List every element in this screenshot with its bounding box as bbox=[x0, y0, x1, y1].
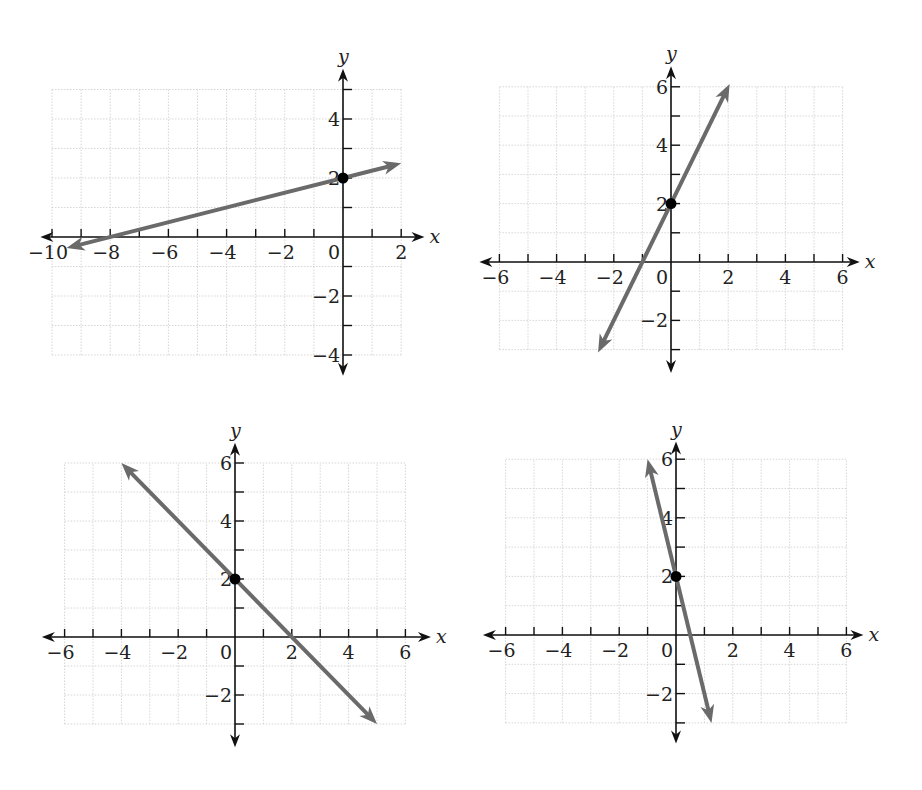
x-tick-label: −4 bbox=[103, 641, 131, 663]
y-tick-label: 6 bbox=[656, 76, 668, 98]
x-tick-label: 2 bbox=[722, 266, 734, 288]
grid bbox=[52, 90, 401, 356]
graph-3: −6−4−20246−2246xy bbox=[42, 419, 447, 748]
x-tick-label: 4 bbox=[779, 266, 791, 288]
axes: −6−4−20246−2246xy bbox=[483, 418, 880, 744]
x-axis-name: x bbox=[868, 623, 879, 645]
axes: −6−4−20246−2246xy bbox=[479, 42, 875, 373]
graphs-figure: −10−8−6−4−202−4−224xy −6−4−20246−2246xy … bbox=[0, 0, 922, 790]
x-tick-label: 4 bbox=[343, 641, 355, 663]
graph-4: −6−4−20246−2246xy bbox=[483, 418, 880, 744]
x-tick-label: −6 bbox=[47, 641, 75, 663]
y-tick-label: −4 bbox=[312, 344, 340, 366]
y-axis-name: y bbox=[337, 45, 349, 67]
axes: −6−4−20246−2246xy bbox=[42, 419, 447, 748]
x-axis-name: x bbox=[436, 625, 447, 647]
x-tick-label: −4 bbox=[539, 266, 567, 288]
y-axis-name: y bbox=[670, 418, 682, 440]
y-intercept-point bbox=[338, 173, 349, 184]
y-axis-name: y bbox=[229, 419, 241, 441]
x-tick-label: −4 bbox=[544, 639, 572, 661]
y-tick-label: 6 bbox=[661, 448, 673, 470]
x-tick-label: −6 bbox=[481, 266, 509, 288]
x-tick-label: −6 bbox=[150, 241, 178, 263]
y-tick-label: −2 bbox=[312, 285, 340, 307]
x-tick-label: −4 bbox=[209, 241, 237, 263]
x-tick-label: 0 bbox=[661, 639, 673, 661]
x-tick-label: 0 bbox=[656, 266, 668, 288]
graph-2: −6−4−20246−2246xy bbox=[479, 42, 875, 373]
x-tick-label: 6 bbox=[837, 266, 849, 288]
y-tick-label: 6 bbox=[220, 452, 232, 474]
x-axis-name: x bbox=[429, 225, 440, 247]
x-tick-label: −8 bbox=[92, 241, 120, 263]
y-intercept-point bbox=[230, 574, 241, 585]
y-tick-label: −2 bbox=[204, 684, 232, 706]
graph-1: −10−8−6−4−202−4−224xy bbox=[28, 45, 441, 376]
y-tick-label: −2 bbox=[640, 309, 668, 331]
y-tick-label: 4 bbox=[220, 510, 232, 532]
x-tick-label: −6 bbox=[488, 639, 516, 661]
x-tick-label: 4 bbox=[784, 639, 796, 661]
x-tick-label: 2 bbox=[727, 639, 739, 661]
x-tick-label: −2 bbox=[160, 641, 188, 663]
x-tick-label: 2 bbox=[286, 641, 298, 663]
x-axis-name: x bbox=[865, 250, 876, 272]
x-tick-label: 2 bbox=[395, 241, 407, 263]
x-tick-label: 0 bbox=[328, 241, 340, 263]
axes: −10−8−6−4−202−4−224xy bbox=[28, 45, 441, 376]
x-tick-label: −2 bbox=[601, 639, 629, 661]
y-intercept-point bbox=[666, 198, 677, 209]
y-tick-label: 4 bbox=[656, 134, 668, 156]
y-intercept-point bbox=[671, 571, 682, 582]
graphs-svg: −10−8−6−4−202−4−224xy −6−4−20246−2246xy … bbox=[0, 0, 922, 790]
x-tick-label: 6 bbox=[840, 639, 852, 661]
plotted-line bbox=[121, 463, 377, 724]
x-tick-label: −2 bbox=[267, 241, 295, 263]
y-axis-name: y bbox=[665, 42, 677, 64]
y-tick-label: −2 bbox=[645, 683, 673, 705]
x-tick-label: 0 bbox=[220, 641, 232, 663]
x-tick-label: −2 bbox=[596, 266, 624, 288]
x-tick-label: −10 bbox=[28, 241, 68, 263]
y-tick-label: 4 bbox=[328, 108, 340, 130]
x-tick-label: 6 bbox=[399, 641, 411, 663]
